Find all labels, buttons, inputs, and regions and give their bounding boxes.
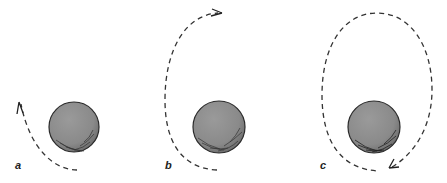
panel-a: a [15,102,99,171]
planet-b [193,101,245,153]
panel-c: c [320,13,432,171]
orbit-diagram: a b c [0,0,447,183]
planet-c [348,101,400,153]
arrow-icon [17,102,23,114]
planet-a [49,102,99,152]
panel-label-c: c [320,159,326,171]
panel-label-a: a [15,159,21,171]
panel-b: b [165,9,245,171]
panel-label-b: b [165,159,172,171]
arrow-icon [389,159,399,168]
